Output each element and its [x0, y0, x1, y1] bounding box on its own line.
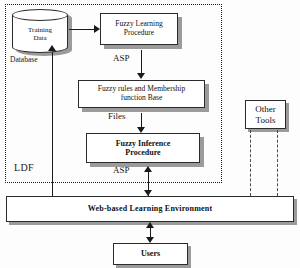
web-learning-environment-node[interactable]: Web-based Learning Environment: [6, 196, 294, 222]
other-tools-label-line1: Other: [255, 104, 276, 114]
edge-training-to-learning: [69, 29, 94, 30]
fuzzy-rules-label-line1: Fuzzy rules and Membership: [98, 84, 185, 93]
cylinder-top-ellipse: [12, 9, 68, 21]
fuzzy-inference-procedure-node[interactable]: Fuzzy Inference Procedure: [86, 133, 200, 163]
edge-web-to-training-data: [52, 52, 53, 196]
training-data-cylinder[interactable]: Training Data: [12, 9, 68, 53]
edge-inference-to-web-arrowhead: [144, 190, 152, 196]
edge-label-asp-bottom: ASP: [113, 165, 130, 175]
users-label: Users: [139, 249, 162, 258]
other-tools-node[interactable]: Other Tools: [245, 100, 286, 129]
edge-web-to-users-arrowhead-up: [146, 222, 154, 228]
edge-web-to-training-data-arrowhead: [48, 45, 56, 51]
edge-learning-to-rules: [141, 50, 142, 74]
fuzzy-learning-procedure-node[interactable]: Fuzzy Learning Procedure: [100, 13, 178, 45]
fuzzy-inference-label-line2: Procedure: [125, 148, 160, 157]
fuzzy-learning-label-line1: Fuzzy Learning: [115, 19, 162, 28]
edge-web-to-inference-arrowhead: [144, 166, 152, 172]
diagram-canvas: LDF Training Data Database Fuzzy Learnin…: [0, 0, 300, 268]
web-environment-label: Web-based Learning Environment: [86, 204, 215, 213]
edge-other-tools-right-dashed: [277, 130, 278, 196]
edge-training-to-learning-arrowhead: [94, 25, 100, 33]
edge-rules-to-inference-arrowhead: [137, 127, 145, 133]
edge-learning-to-rules-arrowhead: [137, 73, 145, 79]
fuzzy-rules-label-line2: function Base: [121, 93, 162, 102]
edge-label-files: Files: [108, 111, 126, 121]
users-node[interactable]: Users: [113, 243, 188, 265]
edge-rules-to-inference: [141, 113, 142, 128]
edge-web-to-users-arrowhead-down: [146, 237, 154, 243]
other-tools-label-line2: Tools: [256, 115, 276, 125]
fuzzy-rules-base-node[interactable]: Fuzzy rules and Membership function Base: [78, 80, 205, 108]
edge-other-tools-left-dashed: [250, 130, 251, 196]
fuzzy-learning-label-line2: Procedure: [124, 28, 154, 37]
training-data-label: Training Data: [12, 21, 68, 47]
database-caption: Database: [10, 55, 37, 64]
training-data-label-line2: Data: [33, 34, 46, 42]
edge-label-asp-top: ASP: [113, 53, 130, 63]
training-data-label-line1: Training: [28, 26, 52, 34]
fuzzy-inference-label-line1: Fuzzy Inference: [116, 139, 171, 148]
ldf-label: LDF: [14, 162, 34, 173]
